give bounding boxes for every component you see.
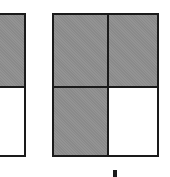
right-divider-horizontal [54,86,157,88]
left-divider-horizontal [0,86,24,88]
right-divider-vertical [107,15,109,155]
left-fraction-model [0,13,26,157]
right-fraction-model [52,13,159,157]
right-cell-top-left [54,15,107,86]
right-cell-bottom-left [54,88,107,155]
cropped-label-mark [113,170,117,177]
right-cell-top-right [109,15,157,86]
left-top-shaded-cell [0,15,24,86]
left-bottom-unshaded-cell [0,88,24,155]
right-cell-bottom-right [109,88,157,155]
